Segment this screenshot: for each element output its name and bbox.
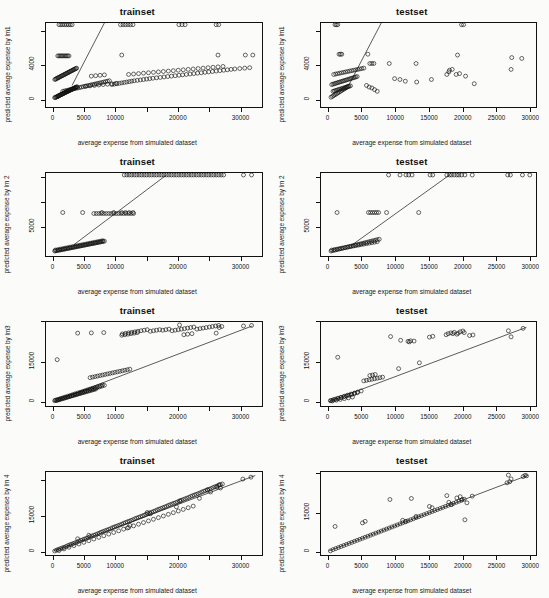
data-point xyxy=(527,173,531,177)
y-tick-label: 15000 xyxy=(28,350,35,370)
plot-frame xyxy=(320,22,538,108)
plot-frame xyxy=(45,22,263,108)
plot-panel-3: trainsetpredicted average expense by lm … xyxy=(0,150,275,300)
x-tick xyxy=(496,257,497,261)
data-point xyxy=(184,72,188,76)
x-tick-label: 10000 xyxy=(106,114,124,121)
data-point xyxy=(128,367,132,371)
x-tick-label: 5000 xyxy=(77,263,91,270)
x-tick xyxy=(530,108,531,112)
x-tick-label: 20000 xyxy=(454,562,472,569)
data-point xyxy=(211,65,215,69)
data-point xyxy=(444,493,448,497)
x-tick xyxy=(361,257,362,261)
x-tick-label: 30000 xyxy=(232,263,250,270)
y-axis-label: predicted average expense by lm 4 xyxy=(276,449,288,598)
y-axis-label-text: predicted average expense by lm1 xyxy=(278,27,285,123)
y-tick-label: 15000 xyxy=(302,501,309,521)
data-point xyxy=(444,72,448,76)
x-tick-label: 30000 xyxy=(521,562,539,569)
data-point xyxy=(146,71,150,75)
data-point xyxy=(373,373,377,377)
data-point xyxy=(369,377,373,381)
data-point xyxy=(509,67,513,71)
x-axis-label: average expense from simulated dataset xyxy=(0,288,275,295)
x-tick xyxy=(395,108,396,112)
y-axis-label-text: predicted average expense by lm 4 xyxy=(278,474,285,572)
x-tick-label: 25000 xyxy=(488,562,506,569)
panel-title: testset xyxy=(275,6,549,17)
scatter-points xyxy=(46,322,262,406)
panel-title: trainset xyxy=(0,156,275,167)
x-tick-label: 5000 xyxy=(354,114,368,121)
plot-panel-2: testsetpredicted average expense by lm1a… xyxy=(275,0,549,150)
x-tick xyxy=(530,407,531,411)
data-point xyxy=(171,510,175,514)
x-tick-label: 10000 xyxy=(386,114,404,121)
data-point xyxy=(455,53,459,57)
data-point xyxy=(333,524,337,528)
x-tick-label: 20000 xyxy=(454,413,472,420)
y-tick-label: 0 xyxy=(28,391,35,411)
data-point xyxy=(462,517,466,521)
x-tick xyxy=(84,257,85,261)
data-point xyxy=(375,376,379,380)
data-point xyxy=(506,329,510,333)
data-point xyxy=(409,496,413,500)
x-tick xyxy=(328,556,329,560)
x-tick xyxy=(361,108,362,112)
data-point xyxy=(156,70,160,74)
x-tick-label: 25000 xyxy=(488,263,506,270)
data-point xyxy=(396,367,400,371)
x-tick xyxy=(463,108,464,112)
data-point xyxy=(221,64,225,68)
data-point xyxy=(55,358,59,362)
data-point xyxy=(182,333,186,337)
data-point xyxy=(131,23,135,27)
data-point xyxy=(137,522,141,526)
x-tick xyxy=(429,407,430,411)
x-tick xyxy=(496,407,497,411)
x-tick-label: 5000 xyxy=(77,413,91,420)
plot-frame xyxy=(45,172,263,258)
x-tick xyxy=(209,407,210,411)
plot-panel-8: testsetpredicted average expense by lm 4… xyxy=(275,449,549,598)
y-axis-label: predicted average expense by lm3 xyxy=(1,299,13,449)
x-tick xyxy=(53,108,54,112)
data-point xyxy=(506,473,510,477)
y-axis-label-text: predicted average expense by lm 2 xyxy=(278,175,285,273)
data-point xyxy=(250,323,254,327)
data-point xyxy=(519,56,523,60)
plot-area xyxy=(45,321,263,407)
data-point xyxy=(218,69,222,73)
x-tick xyxy=(395,407,396,411)
x-tick xyxy=(241,556,242,560)
data-point xyxy=(367,378,371,382)
data-point xyxy=(178,323,182,327)
data-point xyxy=(176,68,180,72)
plot-area xyxy=(320,321,538,407)
x-tick xyxy=(53,556,54,560)
y-axis-label: predicted average expense by lm 4 xyxy=(1,449,13,598)
y-axis-label-text: predicted average expense by lm 4 xyxy=(4,474,11,572)
x-tick xyxy=(115,257,116,261)
x-tick-label: 10000 xyxy=(106,263,124,270)
x-tick xyxy=(209,108,210,112)
data-point xyxy=(387,62,391,66)
x-tick xyxy=(463,257,464,261)
x-tick-label: 20000 xyxy=(169,114,187,121)
data-point xyxy=(372,377,376,381)
data-point xyxy=(97,535,101,539)
x-tick xyxy=(496,556,497,560)
x-tick xyxy=(209,556,210,560)
y-tick-label: 0 xyxy=(302,88,309,108)
x-tick xyxy=(115,556,116,560)
data-point xyxy=(216,53,220,57)
y-tick-label: 0 xyxy=(302,541,309,561)
x-tick xyxy=(84,407,85,411)
x-tick-label: 20000 xyxy=(169,562,187,569)
data-point xyxy=(177,73,181,77)
x-tick xyxy=(178,108,179,112)
scatter-points xyxy=(46,173,262,257)
x-tick-label: 30000 xyxy=(521,114,539,121)
